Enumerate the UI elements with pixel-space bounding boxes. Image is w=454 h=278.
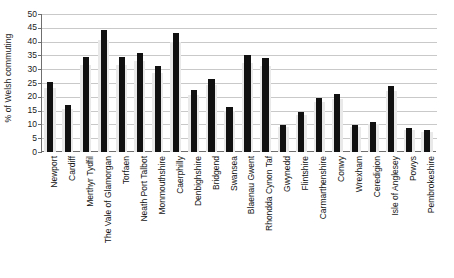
bar	[155, 66, 161, 152]
x-axis-tick-label: Wrexham	[346, 154, 364, 274]
x-axis-tick-label: Torfaen	[113, 154, 131, 274]
bar	[173, 33, 179, 152]
bar-group	[278, 14, 289, 152]
bar-chart: % of Welsh commuting 0510152025303540455…	[0, 0, 454, 278]
x-axis-tick-label: Merthyr Tydfil	[77, 154, 95, 274]
bar	[316, 98, 322, 152]
bar	[119, 57, 125, 152]
bar-group	[332, 14, 343, 152]
x-axis-tick-label: The Vale of Glamorgan	[95, 154, 113, 274]
bar-group	[314, 14, 325, 152]
bar-group	[260, 14, 271, 152]
bar-group	[242, 14, 253, 152]
bar-group	[116, 14, 127, 152]
bar	[83, 57, 89, 152]
bar-group	[421, 14, 432, 152]
bar-group	[296, 14, 307, 152]
bar-group	[98, 14, 109, 152]
y-axis-tick-label: 0	[5, 148, 37, 157]
y-axis-tick-label: 40	[5, 37, 37, 46]
bar	[334, 94, 340, 152]
bar-group	[134, 14, 145, 152]
y-axis-tick-label: 35	[5, 51, 37, 60]
bar	[262, 58, 268, 152]
x-axis-tick-label: Denbighshire	[185, 154, 203, 274]
x-axis-tick-label: Caerphilly	[167, 154, 185, 274]
bar	[406, 128, 412, 152]
x-axis-tick-label: Rhondda Cynon Taf	[256, 154, 274, 274]
bar	[47, 82, 53, 152]
x-axis-tick-label: Powys	[400, 154, 418, 274]
bar	[352, 125, 358, 152]
y-axis-tick-label: 50	[5, 10, 37, 19]
y-axis-tick-label: 5	[5, 134, 37, 143]
bar	[101, 30, 107, 152]
bar	[137, 53, 143, 152]
bar	[388, 86, 394, 152]
bar-group	[80, 14, 91, 152]
bar-group	[350, 14, 361, 152]
x-axis-tick-label: Bridgend	[203, 154, 221, 274]
x-axis-tick-label: Isle of Anglesey	[382, 154, 400, 274]
x-axis-tick-label: Gwynedd	[274, 154, 292, 274]
bar-group	[152, 14, 163, 152]
bar	[191, 90, 197, 152]
bar-group	[368, 14, 379, 152]
y-axis-tick-label: 30	[5, 65, 37, 74]
y-axis-tick-label: 45	[5, 23, 37, 32]
x-axis-tick-label: Conwy	[328, 154, 346, 274]
bar	[65, 105, 71, 152]
x-axis-tick-labels: NewportCardiffMerthyr TydfilThe Vale of …	[41, 154, 436, 278]
x-axis-tick-label: Ceredigion	[364, 154, 382, 274]
x-axis-tick-label: Blaenau Gwent	[239, 154, 257, 274]
y-axis-tick-label: 20	[5, 92, 37, 101]
y-axis-tick-labels: 05101520253035404550	[3, 14, 37, 152]
x-axis-tick-label: Swansea	[221, 154, 239, 274]
bar-group	[224, 14, 235, 152]
x-axis-tick-label: Neath Port Talbot	[131, 154, 149, 274]
bar-group	[170, 14, 181, 152]
x-axis-tick-label: Carmarthenshire	[310, 154, 328, 274]
bar-group	[188, 14, 199, 152]
bar	[280, 125, 286, 152]
bar-group	[404, 14, 415, 152]
bar	[226, 107, 232, 152]
x-axis-tick-label: Cardiff	[59, 154, 77, 274]
bar	[244, 55, 250, 152]
bar	[208, 79, 214, 152]
y-axis-tick-label: 10	[5, 120, 37, 129]
bar-group	[44, 14, 55, 152]
x-axis-tick-label: Pembrokeshire	[418, 154, 436, 274]
x-axis-tick-label: Flintshire	[292, 154, 310, 274]
bar	[298, 112, 304, 152]
bar-group	[206, 14, 217, 152]
x-axis-tick-label: Monmouthshire	[149, 154, 167, 274]
bars-layer	[41, 14, 436, 152]
bar-group	[62, 14, 73, 152]
y-axis-tick	[38, 152, 42, 153]
y-axis-tick-label: 15	[5, 106, 37, 115]
bar-group	[386, 14, 397, 152]
bar	[370, 122, 376, 152]
bar	[424, 130, 430, 152]
y-axis-tick-label: 25	[5, 79, 37, 88]
x-axis-tick-label: Newport	[41, 154, 59, 274]
